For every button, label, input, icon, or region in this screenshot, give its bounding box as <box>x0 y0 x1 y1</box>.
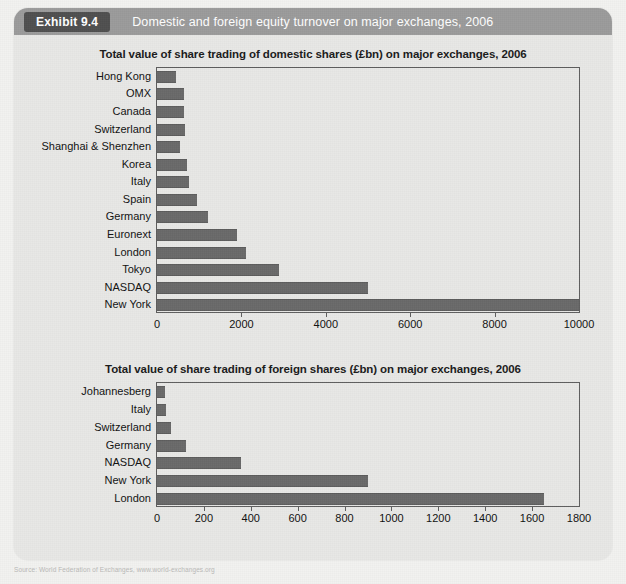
x-axis-tick <box>410 313 411 317</box>
chart-foreign-shares: Total value of share trading of foreign … <box>14 363 612 553</box>
bar <box>157 422 171 434</box>
category-label: New York <box>105 475 151 486</box>
x-axis-tick <box>204 507 205 511</box>
chart-foreign-title: Total value of share trading of foreign … <box>14 363 612 375</box>
category-label: London <box>114 246 151 257</box>
x-axis-tick-label: 600 <box>288 512 306 524</box>
category-label: Germany <box>106 439 151 450</box>
x-axis-tick-label: 1000 <box>379 512 403 524</box>
chart-foreign-plot-area <box>156 382 580 507</box>
category-label: London <box>114 493 151 504</box>
x-axis-tick <box>391 507 392 511</box>
x-axis-tick-label: 800 <box>335 512 353 524</box>
bar <box>157 440 186 452</box>
x-axis-tick-label: 4000 <box>314 318 338 330</box>
source-note: Source: World Federation of Exchanges, w… <box>14 566 215 573</box>
bar <box>157 194 197 206</box>
x-axis-tick-label: 2000 <box>229 318 253 330</box>
bar <box>157 124 185 136</box>
x-axis-tick-label: 1600 <box>520 512 544 524</box>
bar <box>157 176 189 188</box>
x-axis-tick-label: 1800 <box>567 512 591 524</box>
category-label: Germany <box>106 211 151 222</box>
category-label: New York <box>105 299 151 310</box>
bar <box>157 71 176 83</box>
bar <box>157 404 166 416</box>
bar <box>157 247 246 259</box>
bar <box>157 386 165 398</box>
x-axis-tick-label: 6000 <box>398 318 422 330</box>
chart-domestic-x-axis: 0200040006000800010000 <box>156 313 580 333</box>
chart-domestic-category-axis: Hong KongOMXCanadaSwitzerlandShanghai & … <box>14 67 155 313</box>
exhibit-panel: Exhibit 9.4 Domestic and foreign equity … <box>14 8 612 560</box>
category-label: Johannesberg <box>81 385 151 396</box>
x-axis-tick <box>532 507 533 511</box>
category-label: Korea <box>122 158 151 169</box>
bar <box>157 88 184 100</box>
x-axis-tick-label: 0 <box>154 512 160 524</box>
chart-foreign-x-axis: 020040060080010001200140016001800 <box>156 507 580 527</box>
category-label: Italy <box>131 176 151 187</box>
category-label: Hong Kong <box>96 70 151 81</box>
bar <box>157 493 544 505</box>
chart-domestic-shares: Total value of share trading of domestic… <box>14 48 612 348</box>
exhibit-title: Domestic and foreign equity turnover on … <box>132 15 493 29</box>
x-axis-tick <box>298 507 299 511</box>
bar <box>157 282 368 294</box>
category-label: Italy <box>131 403 151 414</box>
category-label: NASDAQ <box>105 457 151 468</box>
x-axis-tick <box>241 313 242 317</box>
bar <box>157 475 368 487</box>
x-axis-tick <box>326 313 327 317</box>
x-axis-tick-label: 400 <box>242 512 260 524</box>
category-label: NASDAQ <box>105 281 151 292</box>
category-label: Canada <box>112 105 151 116</box>
category-label: Switzerland <box>94 123 151 134</box>
x-axis-tick-label: 200 <box>195 512 213 524</box>
bar <box>157 457 241 469</box>
category-label: Switzerland <box>94 421 151 432</box>
x-axis-tick <box>251 507 252 511</box>
bar <box>157 141 180 153</box>
x-axis-tick <box>345 507 346 511</box>
x-axis-tick-label: 8000 <box>482 318 506 330</box>
bar <box>157 159 187 171</box>
x-axis-tick-label: 10000 <box>564 318 595 330</box>
bar <box>157 106 184 118</box>
x-axis-tick <box>485 507 486 511</box>
bar <box>157 264 279 276</box>
chart-domestic-title: Total value of share trading of domestic… <box>14 48 612 60</box>
x-axis-tick-label: 1400 <box>473 512 497 524</box>
category-label: Euronext <box>107 228 151 239</box>
chart-foreign-category-axis: JohannesbergItalySwitzerlandGermanyNASDA… <box>14 382 155 507</box>
category-label: Shanghai & Shenzhen <box>42 141 151 152</box>
category-label: Tokyo <box>122 264 151 275</box>
category-label: Spain <box>123 193 151 204</box>
exhibit-badge: Exhibit 9.4 <box>24 12 110 32</box>
chart-domestic-plot-area <box>156 67 580 313</box>
exhibit-header: Exhibit 9.4 Domestic and foreign equity … <box>14 8 612 35</box>
bar <box>157 211 208 223</box>
x-axis-tick-label: 0 <box>154 318 160 330</box>
category-label: OMX <box>126 88 151 99</box>
x-axis-tick <box>438 507 439 511</box>
x-axis-tick <box>495 313 496 317</box>
x-axis-tick-label: 1200 <box>426 512 450 524</box>
bar <box>157 229 237 241</box>
bar <box>157 299 579 311</box>
